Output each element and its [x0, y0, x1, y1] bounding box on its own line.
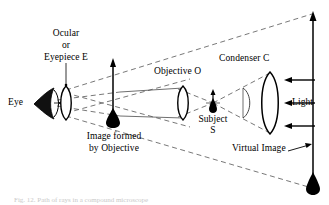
condenser-lens-body: [262, 72, 279, 134]
figure-caption: Fig. 12. Path of rays in a compound micr…: [14, 196, 314, 205]
image-formed-label-line1: Image formed: [68, 131, 160, 142]
ocular-label-line2: or: [32, 40, 100, 51]
field-arc: [243, 88, 250, 118]
condenser-lens: [262, 72, 279, 134]
virtual-image-label: Virtual Image: [232, 143, 286, 154]
eyepiece-leader-dot: [65, 84, 68, 87]
virtual-image-arrowhead: [310, 11, 317, 21]
eye-outline: [34, 88, 54, 119]
eyepiece-lens-body: [61, 86, 72, 120]
subject-base-blob: [209, 98, 217, 113]
subject-label-line1: Subject: [184, 114, 242, 125]
objective-label: Objective O: [154, 66, 201, 77]
intermediate-image-base-blob: [106, 108, 120, 128]
subject-label-line2: S: [184, 125, 242, 136]
light-arrow-top: [284, 77, 315, 83]
optical-ray-diagram: Ocular or Eyepiece E Eye Image formed by…: [0, 0, 329, 205]
ray-bundle-solid: [120, 88, 183, 118]
subject-specimen: [206, 89, 220, 113]
condenser-label: Condenser C: [219, 53, 269, 64]
ray-subject-to-cond-top: [213, 74, 268, 103]
light-label: Light: [292, 97, 313, 108]
eye-label: Eye: [8, 97, 23, 108]
ocular-label-line1: Ocular: [32, 28, 100, 39]
eyepiece-label: Eyepiece E: [26, 52, 106, 63]
intermediate-image-arrow: [106, 58, 120, 128]
intermediate-image-arrowhead: [110, 58, 116, 67]
image-formed-label-line2: by Objective: [68, 143, 160, 154]
subject-arrowhead: [211, 89, 216, 95]
light-arrow-bottom: [284, 123, 315, 129]
field-arc-path: [243, 88, 250, 118]
eyepiece-lens: [61, 63, 72, 120]
eye-lens-arc: [54, 90, 59, 117]
virtual-image-base-blob: [306, 172, 320, 195]
ray-solid-upper: [120, 88, 183, 92]
virtual-image-leader: [288, 143, 312, 151]
